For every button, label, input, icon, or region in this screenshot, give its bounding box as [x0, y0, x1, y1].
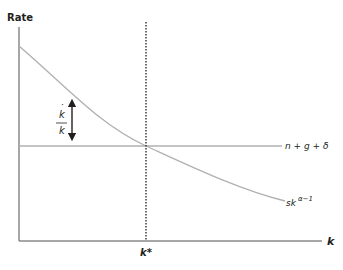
- solow-diagram: · k k Rate k k* n + g + δ sk α−1: [0, 0, 343, 270]
- kdot-numerator: k: [59, 109, 66, 120]
- x-axis-label: k: [327, 235, 335, 248]
- y-axis-label: Rate: [7, 12, 33, 23]
- curve-label-sup: α−1: [298, 195, 313, 203]
- kdot-denominator: k: [59, 125, 66, 136]
- line-label: n + g + δ: [285, 141, 329, 151]
- curve-label-base: sk: [286, 198, 297, 208]
- k-star-label: k*: [140, 247, 153, 258]
- savings-curve: [19, 46, 285, 201]
